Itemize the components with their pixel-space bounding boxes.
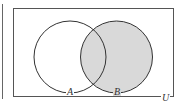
set-a-label: A	[66, 86, 74, 97]
venn-diagram: A B U	[0, 0, 183, 111]
set-b-label: B	[114, 86, 120, 97]
universe-label: U	[162, 92, 170, 103]
